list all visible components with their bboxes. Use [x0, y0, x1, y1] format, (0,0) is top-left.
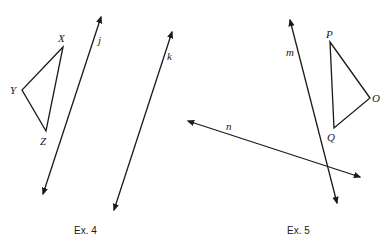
vertex-label-z: Z [40, 135, 47, 147]
triangle-xyz [22, 47, 63, 131]
line-label-n: n [226, 120, 232, 132]
line-label-j: j [96, 34, 101, 46]
line-n [188, 121, 360, 177]
vertex-label-q: Q [327, 131, 335, 143]
geometry-figure: X Y Z j k Ex. 4 P O Q m n Ex. 5 [0, 0, 387, 243]
line-label-k: k [167, 50, 173, 62]
vertex-label-y: Y [10, 84, 18, 96]
vertex-label-p: P [325, 28, 333, 40]
exercise-5: P O Q m n Ex. 5 [188, 20, 380, 236]
line-k [114, 32, 172, 210]
line-label-m: m [286, 46, 294, 58]
exercise-4: X Y Z j k Ex. 4 [10, 17, 173, 236]
caption-ex-5: Ex. 5 [287, 225, 310, 236]
figure-svg: X Y Z j k Ex. 4 P O Q m n Ex. 5 [0, 0, 387, 243]
triangle-poq [330, 42, 370, 128]
caption-ex-4: Ex. 4 [74, 225, 97, 236]
vertex-label-o: O [372, 92, 380, 104]
vertex-label-x: X [57, 32, 66, 44]
